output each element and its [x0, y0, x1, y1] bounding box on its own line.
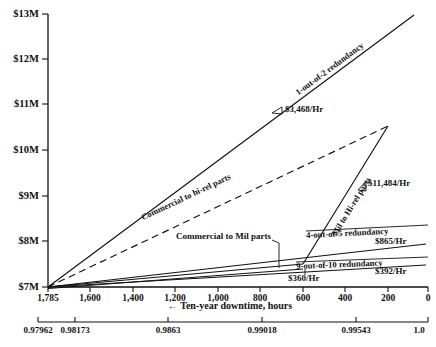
y-tick-label-13m: $13M — [0, 9, 39, 20]
annotation-rate-392: $392/Hr — [375, 267, 407, 276]
y-tick-label-10m: $10M — [0, 145, 39, 156]
avail-label-1-0: 1.0 — [406, 326, 432, 335]
avail-label-0-99018: 0.99018 — [232, 326, 292, 335]
x-tick-label-0: 0 — [412, 294, 436, 304]
marker-rate-3468 — [272, 107, 282, 114]
y-tick-label-9m: $9M — [0, 191, 39, 202]
x-axis-title: ← Ten-year downtime, hours — [120, 301, 340, 311]
annotation-rate-3468: $3,468/Hr — [285, 105, 323, 114]
x-tick-label-1600: 1,600 — [69, 294, 111, 304]
avail-label-0-99543: 0.99543 — [326, 326, 386, 335]
avail-label-0-9863: 0.9863 — [140, 326, 196, 335]
x-tick-label-1785: 1,785 — [27, 294, 69, 304]
y-tick-label-11m: $11M — [0, 99, 39, 110]
annotation-rate-11484: $11,484/Hr — [368, 179, 410, 188]
y-tick-label-7m: $7M — [0, 282, 39, 293]
series-label-commercial-to-mil: Commercial to Mil parts — [176, 232, 271, 241]
leader-commercial-to-mil — [272, 240, 279, 268]
y-tick-label-8m: $8M — [0, 236, 39, 247]
y-tick-label-12m: $12M — [0, 54, 39, 65]
annotation-rate-360: $360/Hr — [288, 274, 320, 283]
cost-vs-downtime-chart: $13M $12M $11M $10M $9M $8M $7M 1,785 1,… — [0, 0, 436, 347]
avail-label-0-98173: 0.98173 — [45, 326, 105, 335]
x-tick-label-200: 200 — [368, 294, 408, 304]
series-line-commercial-to-mil — [48, 264, 303, 287]
annotation-rate-865: $865/Hr — [375, 237, 407, 246]
series-line-1-out-of-2 — [48, 15, 414, 287]
